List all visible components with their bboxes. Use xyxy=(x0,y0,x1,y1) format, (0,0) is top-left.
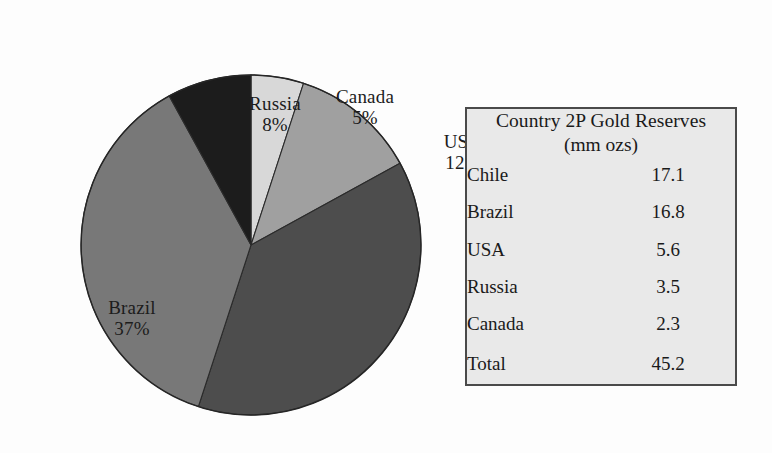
reserves-table-grid: Country 2P Gold Reserves (mm ozs) Chile … xyxy=(467,109,735,384)
cell-country: Russia xyxy=(467,268,601,305)
reserves-table: Country 2P Gold Reserves (mm ozs) Chile … xyxy=(465,107,737,386)
reserves-table-body: Chile 17.1 Brazil 16.8 USA 5.6 Russia 3.… xyxy=(467,156,735,384)
pie-label-russia-name: Russia xyxy=(230,93,320,114)
pie-label-brazil: Brazil 37% xyxy=(89,297,175,340)
table-row[interactable]: USA 5.6 xyxy=(467,231,735,268)
cell-value: 3.5 xyxy=(601,268,735,305)
pie-chart: Russia 8% Canada 5% USA 12% Brazil 37% C… xyxy=(79,73,423,417)
pie-label-russia-pct: 8% xyxy=(230,114,320,135)
cell-value: 17.1 xyxy=(601,156,735,193)
cell-country: Chile xyxy=(467,156,601,193)
table-row[interactable]: Russia 3.5 xyxy=(467,268,735,305)
table-header-row-1: Country 2P Gold Reserves xyxy=(467,109,735,134)
cell-total-label: Total xyxy=(467,343,601,384)
cell-value: 5.6 xyxy=(601,231,735,268)
table-header-row-2: (mm ozs) xyxy=(467,134,735,156)
cell-country: USA xyxy=(467,231,601,268)
reserves-table-head: Country 2P Gold Reserves (mm ozs) xyxy=(467,109,735,156)
table-row[interactable]: Brazil 16.8 xyxy=(467,193,735,230)
cell-value: 2.3 xyxy=(601,306,735,343)
table-row[interactable]: Chile 17.1 xyxy=(467,156,735,193)
pie-label-russia: Russia 8% xyxy=(230,93,320,136)
pie-label-canada-pct: 5% xyxy=(317,107,413,128)
cell-country: Canada xyxy=(467,306,601,343)
pie-label-canada: Canada 5% xyxy=(317,86,413,129)
pie-label-canada-name: Canada xyxy=(317,86,413,107)
table-total-row: Total 45.2 xyxy=(467,343,735,384)
cell-total-value: 45.2 xyxy=(601,343,735,384)
gold-reserves-figure: Russia 8% Canada 5% USA 12% Brazil 37% C… xyxy=(0,0,772,453)
pie-label-brazil-pct: 37% xyxy=(89,318,175,339)
pie-label-brazil-name: Brazil xyxy=(89,297,175,318)
table-header-line1: Country 2P Gold Reserves xyxy=(467,109,735,134)
cell-country: Brazil xyxy=(467,193,601,230)
table-header-line2: (mm ozs) xyxy=(467,134,735,156)
cell-value: 16.8 xyxy=(601,193,735,230)
table-row[interactable]: Canada 2.3 xyxy=(467,306,735,343)
